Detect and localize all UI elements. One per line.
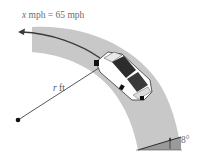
center-point (16, 118, 21, 123)
speed-label: x mph = 65 mph (22, 11, 84, 21)
speed-value: mph = 65 mph (26, 10, 84, 20)
banked-curve-diagram (0, 0, 201, 161)
radius-unit: ft (57, 83, 65, 93)
bank-angle-label: 8° (181, 136, 190, 146)
arrowhead-left-icon (18, 29, 25, 36)
radius-label: r ft (53, 84, 65, 94)
